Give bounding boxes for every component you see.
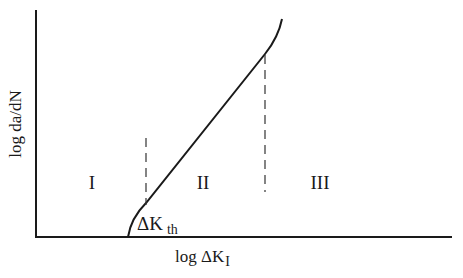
region-label-1: I [89, 172, 95, 193]
threshold-label-sub: th [167, 222, 178, 237]
crack-growth-diagram: I II III ΔKth log ΔKI log da/dN [0, 0, 463, 278]
crack-growth-curve [128, 19, 282, 237]
region-label-2: II [197, 172, 210, 193]
x-axis-label: log ΔKI [175, 247, 230, 269]
threshold-label-main: ΔK [137, 213, 163, 234]
x-axis-label-sub: I [225, 254, 230, 269]
region-label-3: III [311, 172, 330, 193]
y-axis-label: log da/dN [6, 90, 25, 158]
threshold-label: ΔKth [137, 213, 178, 237]
x-axis-label-main: log ΔK [175, 247, 225, 266]
